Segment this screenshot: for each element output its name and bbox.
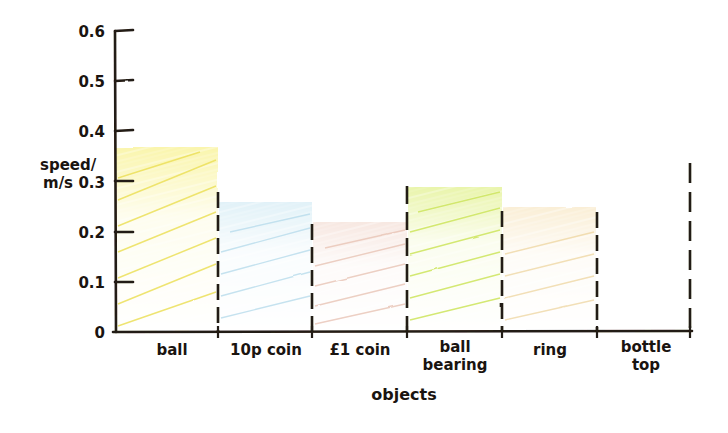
- bar-pound1-coin: [313, 222, 407, 332]
- y-tick-label: 0: [95, 324, 105, 342]
- bar-ball: [116, 147, 218, 332]
- y-tick-label: 0.4: [78, 123, 105, 141]
- cat-label-bottle-top-line2: top: [632, 356, 660, 374]
- chart-canvas: 0.6 0.5 0.4 0.3 0.2 0.1 0 speed/ m/s bal…: [0, 0, 728, 433]
- cat-label-ball-bearing-line1: ball: [439, 338, 470, 356]
- cat-label-bottle-top-line1: bottle: [621, 338, 672, 356]
- y-tick-label: 0.3: [78, 174, 105, 192]
- y-tick-label: 0.6: [78, 23, 105, 41]
- bar-ball-bearing: [408, 187, 502, 332]
- cat-label-ball-bearing-line2: bearing: [423, 356, 488, 374]
- y-tick-label: 0.5: [78, 73, 105, 91]
- y-axis-title-line2: m/s: [43, 174, 73, 192]
- y-axis-title-line1: speed/: [40, 156, 97, 174]
- cat-label-pound1-coin: £1 coin: [329, 341, 390, 359]
- cat-label-10p-coin: 10p coin: [230, 341, 302, 359]
- y-tick-label: 0.1: [78, 274, 105, 292]
- x-category-labels: ball 10p coin £1 coin ball bearing ring …: [156, 338, 671, 374]
- cat-label-ball: ball: [156, 341, 187, 359]
- x-axis-title: objects: [371, 385, 436, 404]
- bar-ring: [503, 207, 596, 332]
- x-axis-title-text: objects: [371, 385, 436, 404]
- y-tick-label: 0.2: [78, 224, 105, 242]
- y-tick-labels: 0.6 0.5 0.4 0.3 0.2 0.1 0: [78, 23, 105, 342]
- hand-drawn-bar-chart: 0.6 0.5 0.4 0.3 0.2 0.1 0 speed/ m/s bal…: [0, 0, 728, 433]
- bars-group: [116, 147, 596, 332]
- cat-label-ring: ring: [533, 341, 567, 359]
- bar-10p-coin: [219, 202, 312, 332]
